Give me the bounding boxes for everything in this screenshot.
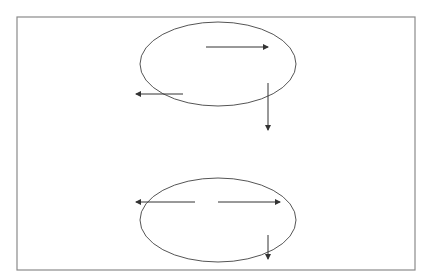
panel-bottom [136,178,296,262]
diagram-frame [17,17,415,270]
diagram-panels [136,22,296,262]
diagram-canvas [0,0,432,277]
ellipse-top [140,22,296,106]
panel-top [136,22,296,130]
ellipse-bottom [140,178,296,262]
